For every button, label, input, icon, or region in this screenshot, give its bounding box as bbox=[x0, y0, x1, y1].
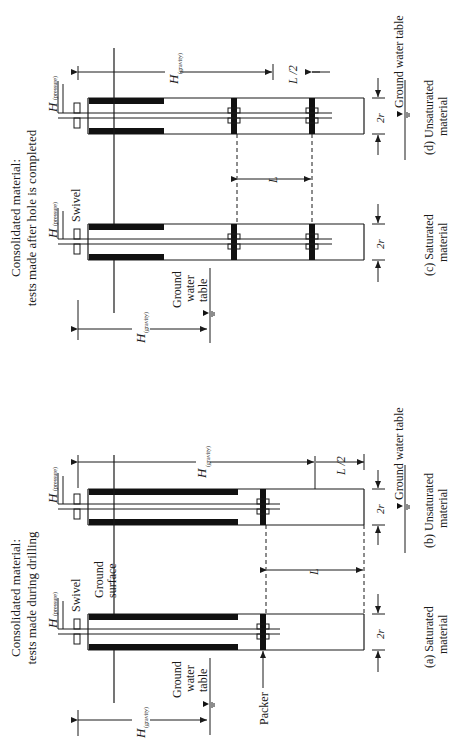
ground-surface-label: Ground bbox=[92, 561, 106, 598]
svg-text:(pressure): (pressure) bbox=[52, 592, 59, 616]
svg-text:(gravity): (gravity) bbox=[205, 446, 212, 467]
gwt-label-b: Ground water table bbox=[392, 407, 406, 500]
svg-text:material: material bbox=[436, 222, 449, 262]
svg-text:Consolidated material:: Consolidated material: bbox=[8, 159, 23, 277]
group-title-after-completion: Consolidated material: tests made after … bbox=[8, 129, 39, 306]
svg-text:(gravity): (gravity) bbox=[177, 53, 184, 74]
h-gravity-label-b: H bbox=[194, 468, 209, 479]
svg-text:material: material bbox=[436, 96, 449, 136]
l-half-label-b: L /2 bbox=[334, 456, 348, 476]
gwt-label-d: Ground water table bbox=[392, 15, 406, 108]
gwt-label-a: Ground bbox=[170, 661, 184, 698]
caption-c: (c) Saturated bbox=[422, 214, 436, 276]
svg-text:table: table bbox=[196, 279, 210, 302]
h-pressure-subscript: (pressure) bbox=[52, 76, 59, 100]
svg-text:water: water bbox=[183, 665, 197, 692]
caption-d: (d) Unsaturated bbox=[422, 80, 436, 155]
h-gravity-label-d: H bbox=[166, 74, 181, 85]
svg-text:tests made during drilling: tests made during drilling bbox=[24, 531, 39, 665]
svg-text:(gravity): (gravity) bbox=[143, 312, 150, 333]
permeability-test-diagram: Consolidated material: tests made after … bbox=[0, 0, 449, 749]
svg-text:water: water bbox=[183, 275, 197, 302]
svg-text:tests made after hole is compl: tests made after hole is completed bbox=[24, 129, 39, 306]
caption-a: (a) Saturated bbox=[422, 606, 436, 668]
panel-c-saturated-after bbox=[58, 204, 385, 343]
swivel-label-c: Swivel bbox=[69, 188, 83, 222]
packer-label: Packer bbox=[257, 692, 271, 725]
panel-d-unsaturated-after bbox=[58, 48, 409, 224]
l-label-d: L bbox=[266, 176, 280, 184]
svg-text:material: material bbox=[436, 614, 449, 654]
h-pressure-label-d: H bbox=[45, 102, 60, 113]
h-gravity-label-a: H bbox=[133, 728, 148, 739]
two-r-label-a: 2r bbox=[374, 629, 386, 640]
panel-a-saturated-drilling bbox=[58, 594, 385, 736]
two-r-label-d: 2r bbox=[374, 113, 386, 124]
packer bbox=[309, 98, 315, 134]
gwt-label-c: Ground bbox=[170, 271, 184, 308]
l-label-b: L bbox=[307, 568, 321, 576]
svg-text:(pressure): (pressure) bbox=[52, 202, 59, 226]
h-pressure-label-b: H bbox=[45, 493, 60, 504]
casing bbox=[89, 128, 164, 134]
svg-text:surface: surface bbox=[105, 563, 119, 598]
svg-text:material: material bbox=[436, 488, 449, 528]
casing bbox=[89, 98, 164, 104]
two-r-label-b: 2r bbox=[374, 504, 386, 515]
h-pressure-label-c: H bbox=[45, 228, 60, 239]
l-half-label-d: L /2 bbox=[286, 65, 300, 85]
group-title-during-drilling: Consolidated material: tests made during… bbox=[8, 531, 39, 665]
svg-text:(gravity): (gravity) bbox=[143, 707, 150, 728]
svg-text:(pressure): (pressure) bbox=[52, 467, 59, 491]
packer bbox=[231, 98, 237, 134]
swivel-label-a: Swivel bbox=[69, 578, 83, 612]
two-r-label-c: 2r bbox=[374, 239, 386, 250]
svg-text:table: table bbox=[196, 669, 210, 692]
h-gravity-label-c: H bbox=[133, 333, 148, 344]
caption-b: (b) Unsaturated bbox=[422, 473, 436, 548]
h-pressure-label-a: H bbox=[45, 618, 60, 629]
svg-text:Consolidated material:: Consolidated material: bbox=[8, 539, 23, 657]
